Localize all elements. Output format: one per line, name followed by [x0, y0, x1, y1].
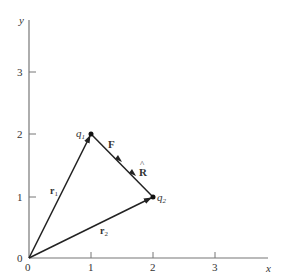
y-tick-0: 0 [17, 252, 23, 264]
r1-label: r1 [50, 185, 58, 198]
x-tick-0: 0 [25, 261, 31, 273]
q1-label: q1 [76, 127, 85, 141]
q1-point [89, 132, 94, 137]
r1-vector [29, 136, 90, 258]
R-hat-arrowhead [129, 169, 136, 176]
y-tick-3: 3 [17, 66, 23, 78]
y-tick-2: 2 [17, 128, 23, 140]
q2-label: q2 [157, 191, 167, 205]
coulomb-force-diagram: y x 3 2 1 0 0 1 2 3 q1 q2 F R ^ r1 r2 [0, 0, 287, 280]
x-tick-3: 3 [212, 261, 218, 273]
x-axis [29, 252, 268, 258]
y-tick-1: 1 [17, 191, 23, 203]
r2-label: r2 [100, 225, 108, 238]
F-label: F [108, 138, 115, 150]
x-tick-2: 2 [150, 261, 156, 273]
y-axis-label: y [18, 14, 24, 26]
r2-vector [29, 198, 151, 258]
y-axis [29, 20, 36, 258]
q2-point [151, 195, 156, 200]
x-axis-label: x [265, 262, 271, 274]
x-tick-1: 1 [88, 261, 94, 273]
